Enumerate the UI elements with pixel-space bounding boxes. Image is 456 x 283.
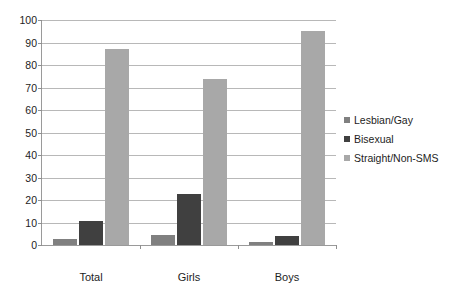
y-axis-tick-label: 60 bbox=[3, 105, 37, 115]
legend-item-3[interactable]: Straight/Non-SMS bbox=[344, 148, 454, 167]
bar-total-series-2 bbox=[79, 221, 103, 245]
y-axis: 1009080706050403020100 bbox=[0, 20, 37, 246]
x-axis-label-boys: Boys bbox=[237, 271, 337, 283]
bar-group-total bbox=[42, 20, 140, 245]
bar-total-series-1 bbox=[53, 239, 77, 245]
x-axis-label-girls: Girls bbox=[139, 271, 239, 283]
x-axis-tick-mark bbox=[336, 245, 337, 249]
bar-girls-series-1 bbox=[151, 235, 175, 245]
y-axis-tick-label: 70 bbox=[3, 83, 37, 93]
y-axis-tick-label: 0 bbox=[3, 240, 37, 250]
bar-boys-series-2 bbox=[275, 236, 299, 245]
bar-total-series-3 bbox=[105, 49, 129, 245]
plot-area: TotalGirlsBoys bbox=[41, 20, 336, 246]
legend-swatch-icon bbox=[344, 136, 350, 142]
bar-girls-series-3 bbox=[203, 79, 227, 246]
bar-group-girls bbox=[140, 20, 238, 245]
y-axis-tick-label: 10 bbox=[3, 218, 37, 228]
legend-label: Bisexual bbox=[354, 133, 394, 145]
legend-item-2[interactable]: Bisexual bbox=[344, 129, 454, 148]
legend-swatch-icon bbox=[344, 155, 350, 161]
legend-swatch-icon bbox=[344, 117, 350, 123]
y-axis-tick-label: 20 bbox=[3, 195, 37, 205]
x-axis-tick-mark bbox=[140, 245, 141, 249]
y-axis-tick-mark bbox=[38, 245, 42, 246]
y-axis-tick-label: 90 bbox=[3, 38, 37, 48]
y-axis-tick-label: 100 bbox=[3, 15, 37, 25]
bar-boys-series-1 bbox=[249, 242, 273, 245]
x-axis-tick-mark bbox=[238, 245, 239, 249]
legend-label: Lesbian/Gay bbox=[354, 114, 413, 126]
y-axis-tick-label: 40 bbox=[3, 150, 37, 160]
y-axis-tick-label: 30 bbox=[3, 173, 37, 183]
y-axis-tick-label: 80 bbox=[3, 60, 37, 70]
legend-item-1[interactable]: Lesbian/Gay bbox=[344, 110, 454, 129]
bar-group-boys bbox=[238, 20, 336, 245]
y-axis-tick-label: 50 bbox=[3, 128, 37, 138]
x-axis-label-total: Total bbox=[41, 271, 141, 283]
bar-girls-series-2 bbox=[177, 194, 201, 245]
chart-legend: Lesbian/GayBisexualStraight/Non-SMS bbox=[344, 110, 454, 167]
bar-boys-series-3 bbox=[301, 31, 325, 245]
legend-label: Straight/Non-SMS bbox=[354, 152, 439, 164]
